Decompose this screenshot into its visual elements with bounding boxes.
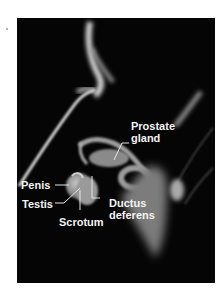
testis-shape — [76, 177, 98, 205]
label-penis: Penis — [21, 179, 50, 191]
label-scrotum: Scrotum — [59, 216, 104, 228]
anatomy-figure: Prostate gland Penis Testis Scrotum Duct… — [17, 18, 215, 283]
label-prostate-gland: Prostate gland — [131, 120, 175, 144]
label-ductus-line2: deferens — [109, 209, 155, 221]
prostate-shape — [89, 149, 129, 167]
label-testis: Testis — [22, 198, 53, 210]
label-testis-text: Testis — [22, 198, 53, 210]
label-prostate-line1: Prostate — [131, 120, 175, 132]
label-ductus-line1: Ductus — [109, 197, 155, 209]
anatomy-illustration — [17, 18, 215, 283]
stray-mark — [6, 28, 8, 30]
body-contour — [19, 90, 95, 186]
label-ductus-deferens: Ductus deferens — [109, 197, 155, 221]
label-scrotum-text: Scrotum — [59, 216, 104, 228]
label-penis-text: Penis — [21, 179, 50, 191]
label-prostate-line2: gland — [131, 132, 175, 144]
